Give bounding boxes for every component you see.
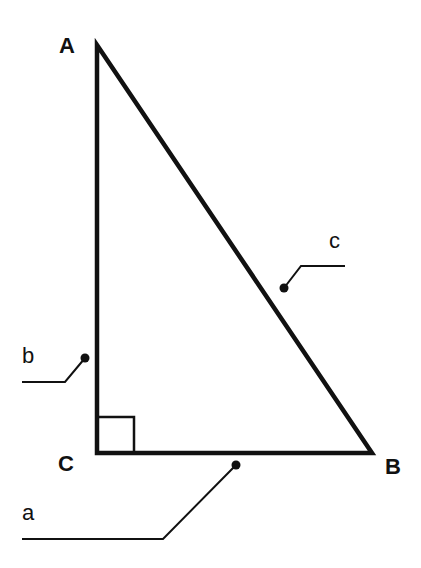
vertex-label-a: A — [59, 33, 75, 58]
vertex-label-b: B — [385, 454, 401, 479]
side-label-b: b — [22, 343, 34, 368]
vertex-label-c: C — [58, 451, 74, 476]
side-label-c: c — [329, 228, 340, 253]
side-a-leader — [22, 461, 241, 540]
right-angle-marker — [97, 417, 134, 453]
right-triangle-diagram: A C B c b a — [0, 0, 421, 568]
side-label-a: a — [22, 500, 35, 525]
side-c-leader — [280, 266, 346, 293]
